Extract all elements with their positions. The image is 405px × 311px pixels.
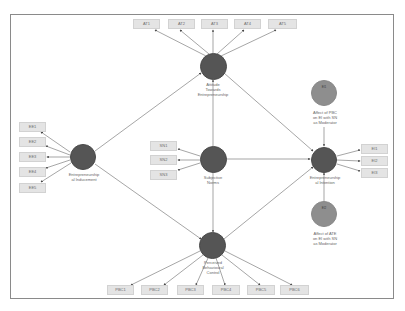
construct-label-sn: Subjective Norms (195, 175, 231, 185)
construct-entrepreneurial-intention[interactable] (311, 147, 337, 173)
indicator-ee4[interactable]: EE4 (19, 167, 46, 177)
indicator-ee3[interactable]: EE3 (19, 152, 46, 162)
indicator-ei2[interactable]: EI2 (361, 156, 388, 166)
indicator-ee1[interactable]: EE1 (19, 122, 46, 132)
moderator-label-1: Affect of PBC on EI with SN as Moderator (302, 110, 348, 125)
construct-subjective-norms[interactable] (200, 146, 227, 173)
indicator-at5[interactable]: AT5 (268, 19, 297, 29)
moderator-node-2[interactable]: EI2 (311, 201, 337, 227)
moderator-label-2: Affect of ATE on EI with SN as Moderator (302, 231, 348, 246)
indicator-pbc3[interactable]: PBC3 (177, 285, 204, 295)
construct-label-ate: Attitude Towards Entrepreneurship (188, 82, 238, 97)
indicator-pbc6[interactable]: PBC6 (280, 285, 309, 295)
construct-label-pbc: Perceived Behavioural Control (190, 260, 236, 275)
indicator-at1[interactable]: AT1 (133, 19, 160, 29)
construct-label-eind: Entrepreneurship al Inducement (58, 172, 110, 182)
indicator-sn2[interactable]: SN2 (150, 155, 177, 165)
indicator-ee5[interactable]: EE5 (19, 183, 46, 193)
moderator-node-1[interactable]: EI1 (311, 80, 337, 106)
construct-entrepreneurial-inducement[interactable] (70, 144, 96, 170)
construct-perceived-behavioural-control[interactable] (199, 232, 226, 259)
indicator-at2[interactable]: AT2 (168, 19, 195, 29)
diagram-canvas: AT1 AT2 AT3 AT4 AT5 EE1 EE2 EE3 EE4 EE5 … (0, 0, 405, 311)
moderator-badge-2: EI2 (322, 206, 327, 210)
indicator-pbc5[interactable]: PBC5 (247, 285, 275, 295)
indicator-pbc4[interactable]: PBC4 (212, 285, 240, 295)
indicator-pbc2[interactable]: PBC2 (141, 285, 168, 295)
indicator-sn1[interactable]: SN1 (150, 141, 177, 151)
indicator-ei1[interactable]: EI1 (361, 144, 388, 154)
construct-attitude-towards-entrepreneurship[interactable] (200, 53, 227, 80)
indicator-at3[interactable]: AT3 (201, 19, 228, 29)
indicator-at4[interactable]: AT4 (234, 19, 261, 29)
construct-label-ei: Entrepreneurship al Intention (299, 175, 351, 185)
indicator-sn3[interactable]: SN3 (150, 170, 177, 180)
indicator-ei3[interactable]: EI3 (361, 168, 388, 178)
indicator-pbc1[interactable]: PBC1 (107, 285, 134, 295)
indicator-ee2[interactable]: EE2 (19, 137, 46, 147)
moderator-badge-1: EI1 (322, 85, 327, 89)
